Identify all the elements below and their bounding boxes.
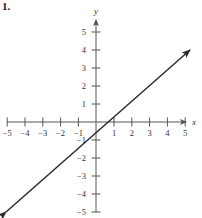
- x-tick-label: −5: [3, 128, 12, 138]
- y-tick-label: −4: [77, 189, 87, 199]
- y-axis-label: y: [93, 6, 98, 16]
- graph-figure: 1.: [0, 0, 202, 218]
- y-tick-label: 3: [82, 63, 86, 73]
- x-tick-label: −4: [20, 128, 30, 138]
- x-tick-label: 3: [147, 128, 151, 138]
- x-tick-label: −2: [56, 128, 65, 138]
- y-tick-label: 1: [82, 99, 86, 109]
- x-tick-label: 4: [165, 128, 170, 138]
- x-axis: −5 −4 −3 −2 −1 1 2 3 4 5 x: [3, 117, 196, 138]
- y-tick-label: −2: [77, 153, 86, 163]
- x-tick-label: −3: [38, 128, 47, 138]
- y-axis: 5 4 3 2 1 −1 −2 −3 −4 −5 y: [77, 6, 101, 217]
- x-tick-label: 2: [130, 128, 134, 138]
- y-tick-label: −5: [77, 207, 86, 217]
- y-tick-label: 4: [82, 45, 87, 55]
- x-axis-label: x: [191, 117, 196, 127]
- x-tick-label: 5: [183, 128, 187, 138]
- plotted-line-series: [6, 50, 190, 212]
- y-tick-label: 2: [82, 81, 86, 91]
- line-y-equals-x: [6, 50, 190, 212]
- x-tick-label: 1: [112, 128, 116, 138]
- y-tick-label: −3: [77, 171, 86, 181]
- y-tick-label: 5: [82, 27, 86, 37]
- coordinate-plane: −5 −4 −3 −2 −1 1 2 3 4 5 x: [0, 0, 202, 218]
